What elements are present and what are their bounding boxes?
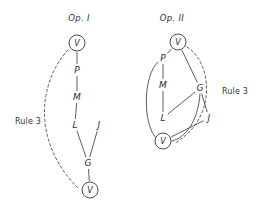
edge-g-to-v-bottom bbox=[88, 169, 89, 180]
edge-m-to-l bbox=[75, 103, 76, 118]
panel-caption-op-2: Op. II bbox=[160, 14, 184, 23]
node-op-1-m: M bbox=[73, 93, 81, 102]
edge-v-top-to-g bbox=[182, 51, 197, 83]
figure-canvas: Op. IVPMLJGVRule 3Op. IIVPMLGJVRule 3 bbox=[0, 0, 262, 209]
node-op-2-j: J bbox=[208, 114, 211, 123]
node-op-1-g: G bbox=[84, 159, 91, 168]
node-op-2-l: L bbox=[160, 114, 165, 123]
rule-label-op-1: Rule 3 bbox=[15, 118, 41, 126]
node-op-2-g: G bbox=[196, 84, 203, 93]
edge-j-to-v-bottom bbox=[171, 121, 203, 137]
rule-label-op-2: Rule 3 bbox=[222, 88, 248, 96]
node-op-1-v-bottom: V bbox=[82, 182, 99, 199]
edge-j-to-g bbox=[90, 131, 97, 157]
curved-edge-p-to-v-bottom bbox=[146, 62, 158, 139]
node-op-2-v-bottom: V bbox=[155, 133, 172, 150]
panel-caption-op-1: Op. I bbox=[68, 14, 90, 23]
edge-l-to-g bbox=[77, 131, 86, 157]
node-op-1-p: P bbox=[74, 66, 80, 75]
node-op-1-l: L bbox=[72, 121, 77, 130]
edge-layer bbox=[0, 0, 262, 209]
node-op-2-v-top: V bbox=[170, 34, 187, 51]
node-op-1-v-top: V bbox=[69, 35, 86, 52]
node-op-2-m: M bbox=[159, 81, 167, 90]
edge-v-top-to-p bbox=[167, 49, 171, 53]
node-op-2-p: P bbox=[160, 54, 166, 63]
edge-group bbox=[45, 47, 208, 188]
edge-g-to-l bbox=[168, 92, 195, 114]
node-op-1-j: J bbox=[98, 121, 101, 130]
